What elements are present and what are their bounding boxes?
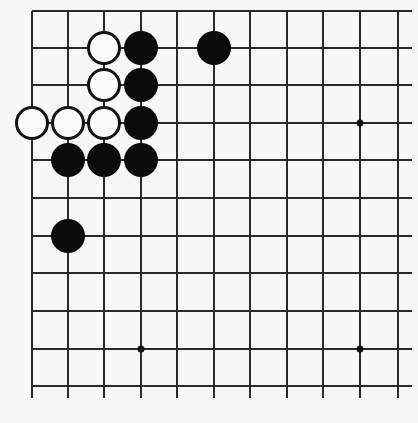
white-stone	[87, 106, 121, 140]
grid-line-horizontal	[32, 348, 412, 349]
star-point	[357, 120, 364, 127]
grid-line-horizontal	[32, 197, 412, 198]
black-stone	[197, 31, 231, 65]
grid-line-vertical	[249, 11, 250, 398]
grid-line-horizontal	[32, 385, 412, 386]
grid-line-vertical	[176, 11, 177, 398]
star-point	[357, 346, 364, 353]
grid-line-vertical	[359, 11, 360, 398]
grid-line-vertical	[397, 11, 398, 398]
grid-line-horizontal	[32, 235, 412, 236]
black-stone	[124, 68, 158, 102]
grid-line-horizontal	[32, 272, 412, 273]
black-stone	[124, 106, 158, 140]
black-stone	[51, 219, 85, 253]
black-stone	[124, 143, 158, 177]
grid-line-horizontal	[32, 10, 412, 12]
grid-line-vertical	[322, 11, 323, 398]
white-stone	[15, 106, 49, 140]
grid-line-vertical	[31, 11, 33, 398]
black-stone	[124, 31, 158, 65]
grid-line-vertical	[213, 11, 214, 398]
white-stone	[87, 68, 121, 102]
go-board	[0, 0, 418, 423]
white-stone	[87, 31, 121, 65]
star-point	[138, 346, 145, 353]
grid-line-horizontal	[32, 310, 412, 311]
black-stone	[87, 143, 121, 177]
grid-line-vertical	[286, 11, 287, 398]
grid-line-vertical	[67, 11, 68, 398]
white-stone	[51, 106, 85, 140]
black-stone	[51, 143, 85, 177]
